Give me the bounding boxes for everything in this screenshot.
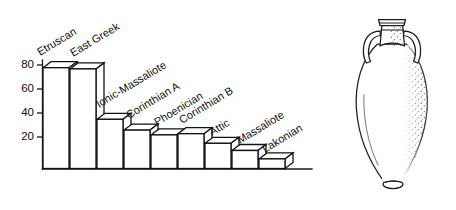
bar-lakonian [259,153,293,169]
amphora-handle-right-shading [413,35,422,63]
amphora-neck-shading [390,24,403,46]
bar-chart-panel: 80 60 40 20 [0,0,330,210]
category-label-attic: Attic [207,116,232,138]
amphora-panel [330,0,456,210]
y-tick-label-20: 20 [21,130,34,142]
y-tick-label-40: 40 [21,106,34,118]
bar-chart-svg: 80 60 40 20 [0,0,330,210]
category-label-east-greek: East Greek [68,20,122,59]
y-tick-label-60: 60 [21,82,34,94]
amphora-shading [382,40,432,192]
y-axis-tick-labels: 80 60 40 20 [21,58,34,142]
figure-root: 80 60 40 20 [0,0,456,210]
y-tick-label-80: 80 [21,58,34,70]
amphora-svg [330,0,456,210]
